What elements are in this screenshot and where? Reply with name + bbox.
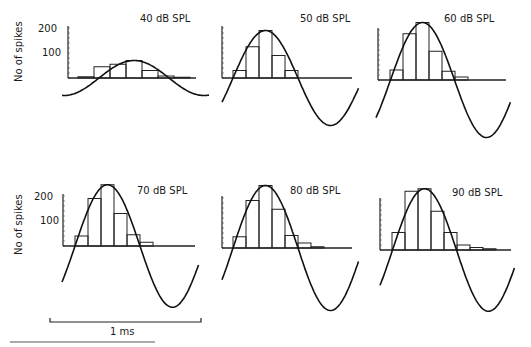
panel-title: 80 dB SPL: [290, 185, 341, 196]
histogram-bar: [101, 185, 114, 246]
histogram-bar: [246, 47, 259, 78]
tick-label-100-bottom: 100: [40, 215, 59, 226]
histogram-bar: [416, 23, 429, 81]
histogram-bar: [259, 186, 272, 249]
panel-title: 50 dB SPL: [300, 13, 351, 24]
panel-title: 60 dB SPL: [444, 13, 495, 24]
histogram-bar: [457, 245, 470, 250]
panel-title: 40 dB SPL: [140, 13, 191, 24]
histogram-bar: [418, 189, 431, 250]
panel-3: 60 dB SPL: [376, 13, 510, 138]
panel-1: 40 dB SPL: [62, 13, 209, 96]
tick-label-200-bottom: 200: [34, 191, 53, 202]
histogram-bar: [298, 243, 311, 248]
panel-6: 90 dB SPL: [380, 187, 514, 311]
figure-canvas: 40 dB SPL50 dB SPL60 dB SPL70 dB SPL80 d…: [0, 0, 531, 347]
histogram-bar: [470, 248, 483, 251]
histogram-bar: [455, 77, 468, 80]
panel-title: 70 dB SPL: [137, 185, 188, 196]
panel-5: 80 dB SPL: [222, 185, 359, 311]
histogram-bar: [259, 31, 272, 79]
histogram-bar: [126, 61, 142, 79]
histogram-bar: [272, 56, 285, 79]
tick-label-200-top: 200: [38, 23, 57, 34]
scale-bar: 1 ms: [50, 318, 201, 337]
histogram-bar: [272, 209, 285, 248]
tick-label-100-top: 100: [42, 47, 61, 58]
y-axis-label-top: No of spikes: [13, 21, 24, 82]
histogram-bar: [114, 214, 127, 247]
panel-4: 70 dB SPL: [62, 185, 199, 307]
y-axis-label-bottom: No of spikes: [13, 194, 24, 255]
panel-title: 90 dB SPL: [452, 187, 503, 198]
scale-bar-label: 1 ms: [110, 326, 135, 337]
histogram-bar: [429, 51, 442, 80]
panels: 40 dB SPL50 dB SPL60 dB SPL70 dB SPL80 d…: [62, 13, 514, 311]
histogram-bar: [431, 211, 444, 250]
panel-2: 50 dB SPL: [222, 13, 359, 126]
histogram-bar: [174, 77, 190, 78]
histogram-bar: [142, 71, 158, 79]
histogram-bar: [110, 64, 126, 78]
